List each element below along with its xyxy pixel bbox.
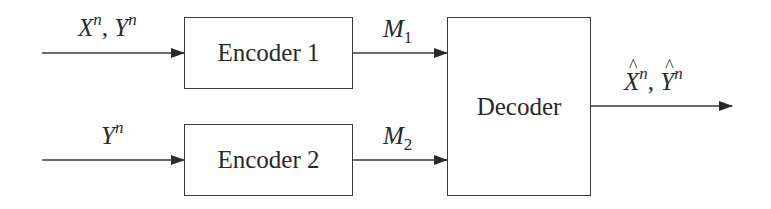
message-1-label: M1: [383, 15, 412, 48]
encoder-1-label: Encoder 1: [217, 39, 319, 67]
decoder-block: Decoder: [447, 17, 591, 196]
encoder-1-block: Encoder 1: [184, 17, 353, 89]
encoder-2-label: Encoder 2: [217, 146, 319, 174]
input-1-label: Xn, Yn: [78, 12, 137, 42]
encoder-2-block: Encoder 2: [184, 124, 353, 196]
input-2-label: Yn: [101, 120, 123, 150]
decoder-label: Decoder: [477, 93, 562, 121]
output-label: Xn, Yn: [624, 66, 683, 96]
message-2-label: M2: [383, 122, 412, 155]
